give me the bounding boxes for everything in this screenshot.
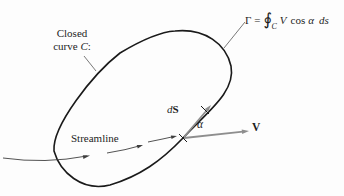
gamma-symbol: Γ bbox=[245, 14, 251, 26]
formula-leader-line bbox=[224, 22, 245, 48]
velocity-symbol: V bbox=[280, 14, 287, 26]
arrowhead-icon bbox=[83, 155, 90, 159]
closed-curve-leader-line bbox=[84, 56, 96, 71]
ds-label: dS bbox=[167, 104, 179, 115]
cosine-operator: cos bbox=[291, 14, 306, 26]
streamline-arrow-1 bbox=[3, 155, 90, 160]
closed-curve-label-line1: Closed bbox=[57, 27, 88, 39]
circulation-formula: Γ = ∮ C V cos α ds bbox=[245, 7, 329, 33]
arrowhead-icon bbox=[242, 130, 249, 134]
closed-curve-label-colon: : bbox=[88, 40, 91, 52]
curve-name-symbol: C bbox=[80, 40, 87, 52]
alpha-symbol: α bbox=[308, 14, 314, 26]
arrowhead-icon bbox=[171, 136, 177, 140]
streamline-arrow-2 bbox=[107, 145, 143, 153]
velocity-label: V bbox=[252, 122, 260, 134]
integral-subscript: C bbox=[271, 22, 276, 31]
equals-sign: = bbox=[254, 14, 260, 26]
velocity-vector-arrow bbox=[184, 130, 249, 138]
streamline-label: Streamline bbox=[71, 133, 119, 144]
ds-differential: ds bbox=[319, 14, 329, 26]
ds-label-vector: S bbox=[173, 103, 179, 115]
closed-curve-label-line2: curve bbox=[53, 40, 80, 52]
closed-curve-path bbox=[54, 31, 232, 187]
circulation-diagram: Γ = ∮ C V cos α ds Closed curve C: Strea… bbox=[0, 0, 344, 196]
arrowhead-icon bbox=[137, 145, 143, 149]
streamline-arrow-3 bbox=[148, 136, 177, 142]
closed-curve-label: Closed curve C: bbox=[44, 27, 100, 53]
alpha-label: α bbox=[197, 119, 203, 131]
